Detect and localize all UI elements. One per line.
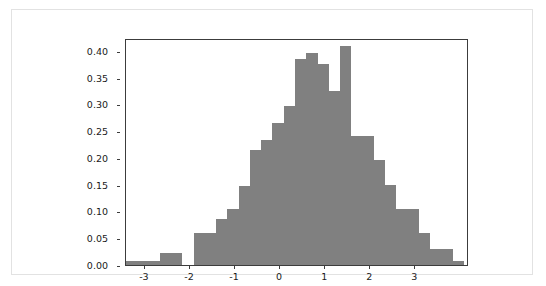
y-tick-mark — [117, 239, 120, 240]
histogram-bar — [363, 136, 374, 265]
histogram-bar — [171, 253, 182, 265]
histogram-bar — [329, 91, 340, 265]
histogram-bar — [318, 64, 329, 265]
x-tick-label: 2 — [366, 272, 372, 282]
y-tick-label: 0.05 — [87, 234, 108, 244]
y-tick-mark — [117, 186, 120, 187]
y-tick-mark — [117, 132, 120, 133]
histogram-bar — [160, 253, 171, 265]
y-tick-label: 0.30 — [87, 100, 108, 110]
histogram-bar — [284, 106, 295, 265]
x-tick-mark — [144, 266, 145, 269]
figure-panel: 0.000.050.100.150.200.250.300.350.40 -3-… — [11, 9, 533, 275]
y-tick-label: 0.10 — [87, 207, 108, 217]
x-tick-mark — [414, 266, 415, 269]
histogram-bar — [149, 261, 160, 265]
histogram-bar — [430, 249, 441, 265]
histogram-bar — [340, 46, 351, 266]
y-tick-mark — [117, 52, 120, 53]
y-tick-label: 0.40 — [87, 47, 108, 57]
x-tick-label: 1 — [321, 272, 327, 282]
histogram-bar — [295, 59, 306, 265]
y-tick-mark — [117, 79, 120, 80]
plot-area — [125, 39, 468, 266]
histogram-bar — [250, 150, 261, 265]
x-tick-mark — [279, 266, 280, 269]
histogram-bar — [216, 219, 227, 265]
y-tick-mark — [117, 266, 120, 267]
x-tick-label: -2 — [184, 272, 193, 282]
histogram-bar — [126, 261, 137, 265]
x-tick-label: -1 — [229, 272, 238, 282]
y-tick-mark — [117, 105, 120, 106]
histogram-bar — [396, 209, 407, 265]
x-tick-label: 3 — [411, 272, 417, 282]
histogram-bar — [239, 186, 250, 265]
y-axis: 0.000.050.100.150.200.250.300.350.40 — [12, 39, 120, 266]
plot-wrapper — [125, 39, 468, 266]
x-tick-mark — [324, 266, 325, 269]
x-tick-mark — [369, 266, 370, 269]
histogram-bar — [272, 123, 283, 265]
histogram-bar — [306, 53, 317, 265]
histogram-bar — [374, 160, 385, 265]
histogram-bar — [419, 233, 430, 265]
x-tick-mark — [189, 266, 190, 269]
histogram-bar — [408, 209, 419, 265]
x-tick-label: -3 — [139, 272, 148, 282]
histogram-bar — [351, 136, 362, 265]
x-axis: -3-2-10123 — [125, 266, 468, 286]
histogram-bars — [126, 40, 467, 265]
y-tick-mark — [117, 159, 120, 160]
histogram-bar — [205, 233, 216, 265]
y-tick-label: 0.20 — [87, 154, 108, 164]
x-tick-label: 0 — [276, 272, 282, 282]
y-tick-label: 0.00 — [87, 261, 108, 271]
histogram-bar — [453, 261, 464, 265]
histogram-bar — [137, 261, 148, 265]
x-tick-mark — [234, 266, 235, 269]
histogram-bar — [261, 140, 272, 265]
y-tick-label: 0.15 — [87, 181, 108, 191]
histogram-bar — [385, 185, 396, 265]
histogram-bar — [227, 209, 238, 265]
histogram-bar — [194, 233, 205, 265]
y-tick-label: 0.35 — [87, 74, 108, 84]
histogram-bar — [442, 249, 453, 265]
y-tick-mark — [117, 212, 120, 213]
y-tick-label: 0.25 — [87, 127, 108, 137]
